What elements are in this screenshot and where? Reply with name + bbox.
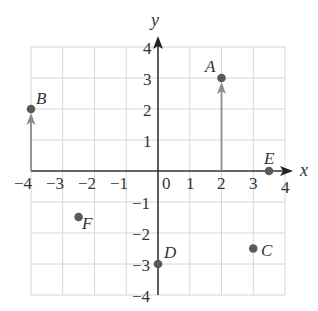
x-tick: 3 — [249, 174, 258, 193]
point-C: C — [249, 241, 273, 260]
point-F: F — [74, 213, 93, 233]
y-tick: −3 — [132, 256, 150, 275]
x-tick: 2 — [217, 174, 226, 193]
point-E: E — [263, 149, 275, 175]
point-A: A — [204, 57, 226, 82]
point-D: D — [154, 243, 177, 268]
x-tick: −2 — [78, 174, 96, 193]
x-tick: 1 — [186, 174, 195, 193]
x-tick: 0 — [162, 174, 171, 193]
y-axis — [153, 36, 163, 295]
arrow-to-A — [217, 82, 226, 171]
point-label: F — [81, 214, 93, 233]
x-tick: 4 — [281, 178, 290, 197]
y-tick: −2 — [132, 225, 150, 244]
y-tick: −4 — [132, 287, 151, 306]
point-label: D — [163, 243, 177, 262]
y-tick: 4 — [143, 39, 152, 58]
point-label: E — [263, 149, 275, 168]
x-axis-label: x — [299, 160, 308, 180]
point-label: A — [204, 57, 216, 76]
y-tick: 2 — [143, 101, 152, 120]
y-tick: −1 — [132, 194, 150, 213]
x-tick: −1 — [110, 174, 128, 193]
y-tick-labels: 4 3 2 1 −1 −2 −3 −4 — [132, 39, 152, 306]
y-axis-label: y — [149, 10, 159, 30]
x-tick: −4 — [14, 174, 33, 193]
arrow-to-B — [27, 113, 36, 171]
coordinate-plane: x y −4 −3 −2 −1 0 1 2 3 4 4 3 2 1 −1 −2 … — [0, 0, 318, 311]
x-tick: −3 — [46, 174, 64, 193]
x-tick-labels: −4 −3 −2 −1 0 1 2 3 4 — [14, 174, 290, 197]
point-label: C — [261, 241, 273, 260]
y-tick: 1 — [143, 132, 152, 151]
y-tick: 3 — [143, 70, 152, 89]
point-B: B — [27, 89, 47, 113]
point-label: B — [36, 89, 47, 108]
